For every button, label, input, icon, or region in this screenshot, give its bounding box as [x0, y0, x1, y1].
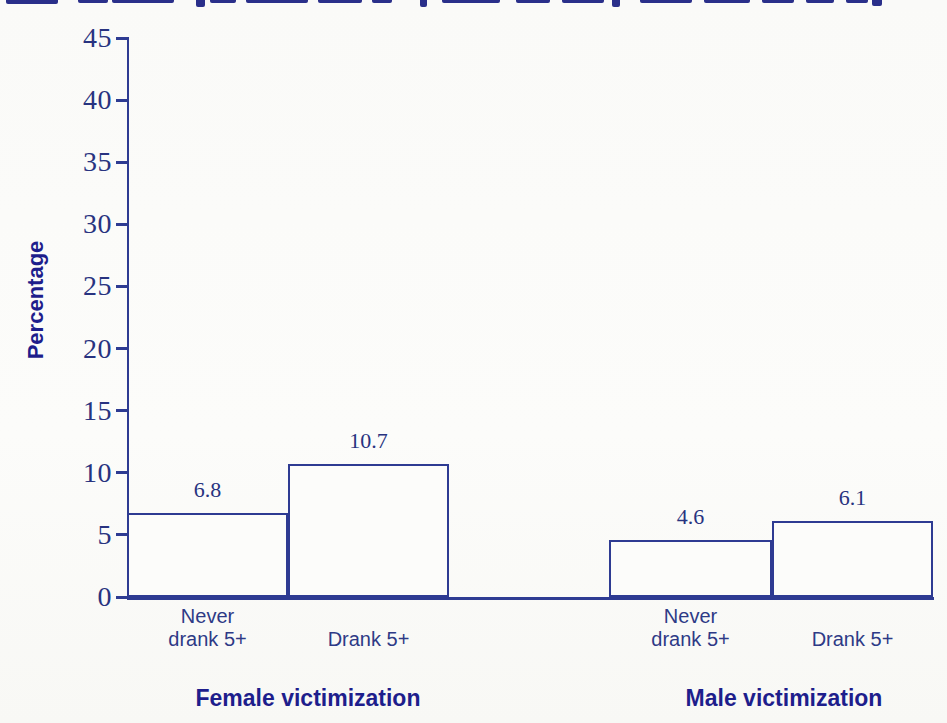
y-tick-label: 45: [50, 21, 112, 55]
y-tick-mark: [116, 285, 127, 288]
y-tick-label: 35: [50, 145, 112, 179]
bar-value-label: 4.6: [677, 504, 705, 530]
cropped-title-fragment: [246, 0, 308, 3]
x-axis-line: [127, 597, 934, 600]
y-tick-mark: [116, 223, 127, 226]
y-tick-label: 20: [50, 332, 112, 366]
cropped-title-fragment: [704, 0, 750, 3]
cropped-title-fragment: [516, 0, 550, 3]
cropped-title-fragment: [372, 0, 392, 3]
category-label: Neverdrank 5+: [651, 604, 729, 651]
y-tick-label: 15: [50, 394, 112, 428]
cropped-title-fragment: [806, 0, 834, 3]
category-label-line: Never: [651, 605, 729, 628]
bar-male-never-drank-5-: [609, 540, 772, 597]
y-tick-mark: [116, 596, 127, 599]
group-label-male: Male victimization: [686, 685, 883, 712]
group-label-female: Female victimization: [196, 685, 421, 712]
y-tick-mark: [116, 37, 127, 40]
category-label: Neverdrank 5+: [168, 604, 246, 651]
y-tick-label: 5: [50, 518, 112, 552]
cropped-title-fragment: [612, 0, 620, 7]
cropped-title-fragment: [196, 0, 205, 7]
category-label-line: Never: [168, 605, 246, 628]
y-tick-label: 10: [50, 456, 112, 490]
category-label-line: drank 5+: [651, 628, 729, 651]
cropped-title-fragment: [846, 0, 868, 3]
category-label: Drank 5+: [328, 604, 410, 651]
y-axis-title: Percentage: [23, 241, 49, 360]
cropped-title-fragment: [210, 0, 236, 3]
category-label: Drank 5+: [812, 604, 894, 651]
y-tick-label: 0: [50, 580, 112, 614]
y-tick-mark: [116, 161, 127, 164]
bar-female-drank-5-: [288, 464, 449, 597]
y-tick-label: 25: [50, 269, 112, 303]
bar-male-drank-5-: [772, 521, 933, 597]
cropped-title-fragment: [6, 0, 58, 4]
bar-value-label: 6.8: [194, 477, 222, 503]
cropped-title-fragment: [442, 0, 500, 3]
cropped-title-fragment: [112, 0, 174, 3]
y-tick-mark: [116, 347, 127, 350]
bar-value-label: 6.1: [839, 485, 867, 511]
cropped-title-fragment: [420, 0, 427, 7]
y-tick-mark: [116, 409, 127, 412]
y-tick-mark: [116, 471, 127, 474]
y-tick-label: 30: [50, 207, 112, 241]
y-tick-label: 40: [50, 83, 112, 117]
bar-female-never-drank-5-: [127, 513, 288, 597]
category-label-line: drank 5+: [168, 628, 246, 651]
y-tick-mark: [116, 99, 127, 102]
bar-chart-figure: Percentage 051015202530354045 6.8Neverdr…: [0, 0, 947, 723]
cropped-title-fragment: [318, 0, 362, 3]
cropped-title-fragment: [78, 0, 108, 3]
y-tick-mark: [116, 533, 127, 536]
bar-value-label: 10.7: [349, 428, 388, 454]
category-label-line: Drank 5+: [812, 628, 894, 651]
category-label-line: Drank 5+: [328, 628, 410, 651]
cropped-title-fragment: [562, 0, 604, 3]
cropped-title-fragment: [640, 0, 692, 3]
cropped-title-fragment: [872, 0, 882, 6]
cropped-title-fragment: [762, 0, 794, 3]
